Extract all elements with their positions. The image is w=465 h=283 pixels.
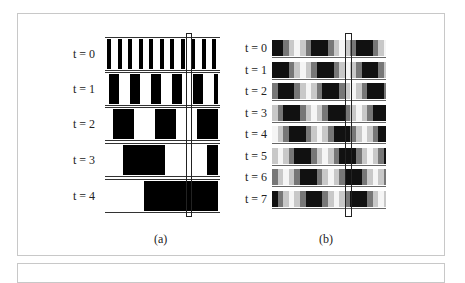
- gray-cell: [384, 105, 386, 121]
- row-bottom-line: [272, 79, 386, 80]
- black-stripe: [170, 39, 174, 69]
- gray-cell: [384, 126, 386, 142]
- row-label: t = 4: [245, 127, 267, 142]
- black-stripe: [202, 39, 206, 69]
- gray-pattern-row: [272, 169, 386, 185]
- row-bottom-line: [272, 143, 386, 144]
- gray-cell: [384, 40, 386, 56]
- black-stripe: [212, 39, 216, 69]
- row-bottom-line: [272, 208, 386, 209]
- black-stripe: [144, 181, 218, 211]
- gray-pattern-row: [272, 148, 386, 164]
- black-stripe: [107, 39, 111, 69]
- row-top-line: [105, 72, 220, 73]
- black-stripe: [109, 74, 119, 104]
- row-bottom-line: [105, 105, 220, 106]
- black-stripe: [214, 74, 218, 104]
- black-stripe: [151, 74, 161, 104]
- stripe-row: [107, 145, 218, 175]
- row-label: t = 3: [245, 106, 267, 121]
- gray-pattern-row: [272, 105, 386, 121]
- black-stripe: [181, 39, 185, 69]
- stripe-row: [107, 74, 218, 104]
- stripe-row: [107, 181, 218, 211]
- stripe-row: [107, 39, 218, 69]
- row-bottom-line: [105, 70, 220, 71]
- row-bottom-line: [272, 186, 386, 187]
- panel-b-caption: (b): [319, 232, 333, 247]
- row-top-line: [105, 179, 220, 180]
- next-figure-frame: [17, 263, 445, 283]
- row-top-line: [105, 143, 220, 144]
- gray-cell: [384, 62, 386, 78]
- row-bottom-line: [272, 122, 386, 123]
- black-stripe: [130, 74, 140, 104]
- black-stripe: [139, 39, 143, 69]
- row-label: t = 5: [245, 149, 267, 164]
- row-label: t = 6: [245, 170, 267, 185]
- row-top-line: [105, 107, 220, 108]
- gray-cell: [384, 191, 386, 207]
- row-label: t = 0: [73, 47, 95, 62]
- row-bottom-line: [105, 212, 220, 213]
- black-stripe: [128, 39, 132, 69]
- black-stripe: [197, 109, 218, 139]
- row-label: t = 3: [73, 153, 95, 168]
- stripe-row: [107, 109, 218, 139]
- black-stripe: [160, 39, 164, 69]
- row-label: t = 2: [73, 117, 95, 132]
- black-stripe: [149, 39, 153, 69]
- gray-pattern-row: [272, 83, 386, 99]
- gray-cell: [384, 83, 386, 99]
- black-stripe: [113, 109, 134, 139]
- row-top-line: [105, 37, 220, 38]
- row-label: t = 4: [73, 189, 95, 204]
- row-label: t = 7: [245, 192, 267, 207]
- gray-pattern-row: [272, 40, 386, 56]
- row-bottom-line: [272, 100, 386, 101]
- black-stripe: [118, 39, 122, 69]
- row-bottom-line: [105, 176, 220, 177]
- row-bottom-line: [272, 165, 386, 166]
- gray-cell: [384, 148, 386, 164]
- row-label: t = 1: [73, 82, 95, 97]
- black-stripe: [193, 74, 203, 104]
- row-label: t = 0: [245, 41, 267, 56]
- highlight-column: [345, 33, 352, 217]
- gray-pattern-row: [272, 191, 386, 207]
- row-bottom-line: [105, 140, 220, 141]
- black-stripe: [207, 145, 218, 175]
- highlight-column: [186, 33, 192, 217]
- row-label: t = 2: [245, 84, 267, 99]
- black-stripe: [123, 145, 165, 175]
- gray-pattern-row: [272, 126, 386, 142]
- gray-pattern-row: [272, 62, 386, 78]
- black-stripe: [172, 74, 182, 104]
- black-stripe: [155, 109, 176, 139]
- row-bottom-line: [272, 57, 386, 58]
- row-label: t = 1: [245, 63, 267, 78]
- panel-a-caption: (a): [154, 232, 167, 247]
- gray-cell: [384, 169, 386, 185]
